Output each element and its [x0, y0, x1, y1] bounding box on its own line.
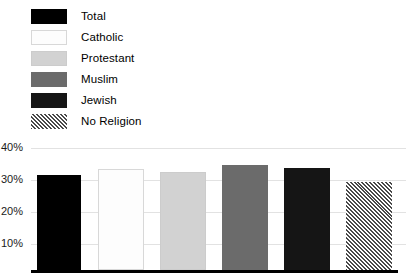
legend-label-catholic: Catholic — [81, 32, 123, 44]
legend-swatch-no-religion-icon — [31, 114, 67, 129]
bars-layer — [0, 140, 406, 278]
x-axis-baseline — [31, 270, 398, 273]
legend-swatch-catholic-icon — [31, 30, 67, 45]
chart-legend: Total Catholic Protestant Muslim Jewish … — [31, 5, 211, 135]
legend-swatch-total-icon — [31, 9, 67, 24]
plot-area: 40% 30% 20% 10% — [0, 140, 406, 278]
legend-swatch-jewish-icon — [31, 93, 67, 108]
legend-item-jewish[interactable]: Jewish — [31, 91, 117, 110]
legend-item-muslim[interactable]: Muslim — [31, 70, 118, 89]
legend-label-no-religion: No Religion — [81, 116, 142, 128]
legend-swatch-protestant-icon — [31, 51, 67, 66]
bar-total[interactable] — [37, 175, 81, 270]
legend-label-jewish: Jewish — [81, 95, 117, 107]
bar-chart: Total Catholic Protestant Muslim Jewish … — [0, 0, 406, 278]
legend-item-no-religion[interactable]: No Religion — [31, 112, 142, 131]
legend-swatch-muslim-icon — [31, 72, 67, 87]
legend-label-protestant: Protestant — [81, 53, 134, 65]
bar-protestant[interactable] — [160, 172, 206, 270]
bar-jewish[interactable] — [284, 168, 330, 270]
legend-label-total: Total — [81, 11, 106, 23]
legend-item-protestant[interactable]: Protestant — [31, 49, 134, 68]
legend-item-catholic[interactable]: Catholic — [31, 28, 123, 47]
bar-catholic[interactable] — [98, 169, 144, 270]
bar-muslim[interactable] — [222, 165, 268, 270]
legend-label-muslim: Muslim — [81, 74, 118, 86]
legend-item-total[interactable]: Total — [31, 7, 106, 26]
bar-no-religion[interactable] — [346, 182, 392, 270]
